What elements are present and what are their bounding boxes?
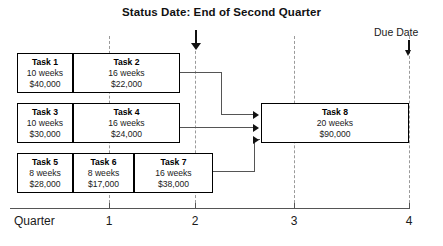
connector-task2-segment-v	[221, 72, 222, 115]
gridline-quarter-4	[409, 36, 410, 208]
task-cost: $90,000	[262, 129, 408, 140]
connector-arrow-into-task8-bottom	[253, 136, 259, 144]
due-date-arrow-icon	[405, 50, 411, 56]
connector-task2-segment-h1	[180, 72, 222, 73]
connector-arrow-into-task8-top	[253, 111, 259, 119]
axis-label-1: 1	[94, 214, 124, 228]
task-cost: $24,000	[74, 129, 179, 140]
task-duration: 20 weeks	[262, 118, 408, 129]
task-box-task-4[interactable]: Task 4 16 weeks $24,000	[73, 103, 180, 143]
gantt-chart-diagram: Status Date: End of Second Quarter Due D…	[0, 0, 443, 246]
task-box-task-5[interactable]: Task 5 8 weeks $28,000	[17, 153, 73, 193]
task-cost: $17,000	[74, 179, 133, 190]
task-duration: 10 weeks	[18, 68, 72, 79]
task-cost: $30,000	[18, 129, 72, 140]
axis-tick-3	[294, 203, 295, 209]
task-cost: $40,000	[18, 79, 72, 90]
task-box-task-8[interactable]: Task 8 20 weeks $90,000	[261, 103, 409, 143]
task-title: Task 7	[135, 157, 212, 168]
task-duration: 16 weeks	[74, 118, 179, 129]
task-duration: 8 weeks	[18, 168, 72, 179]
task-box-task-7[interactable]: Task 7 16 weeks $38,000	[134, 153, 213, 193]
task-box-task-3[interactable]: Task 3 10 weeks $30,000	[17, 103, 73, 143]
task-title: Task 4	[74, 107, 179, 118]
task-duration: 8 weeks	[74, 168, 133, 179]
status-date-title: Status Date: End of Second Quarter	[0, 6, 443, 18]
axis-label-2: 2	[180, 214, 210, 228]
task-duration: 16 weeks	[135, 168, 212, 179]
task-box-task-6[interactable]: Task 6 8 weeks $17,000	[73, 153, 134, 193]
task-title: Task 3	[18, 107, 72, 118]
task-box-task-1[interactable]: Task 1 10 weeks $40,000	[17, 53, 73, 93]
task-title: Task 5	[18, 157, 72, 168]
connector-task7-segment-v	[254, 139, 255, 172]
due-date-label: Due Date	[374, 26, 418, 38]
task-duration: 16 weeks	[74, 68, 179, 79]
task-title: Task 8	[262, 107, 408, 118]
axis-tick-1	[109, 203, 110, 209]
task-cost: $28,000	[18, 179, 72, 190]
task-title: Task 6	[74, 157, 133, 168]
axis-label-4: 4	[394, 214, 424, 228]
connector-arrow-into-task8-middle	[253, 124, 259, 132]
task-box-task-2[interactable]: Task 2 16 weeks $22,000	[73, 53, 180, 93]
axis-label-3: 3	[279, 214, 309, 228]
axis-tick-4	[409, 203, 410, 209]
quarter-axis-line	[10, 208, 410, 209]
axis-caption-quarter: Quarter	[14, 214, 55, 228]
connector-task2-segment-h2	[221, 114, 254, 115]
status-date-arrow-icon	[191, 43, 201, 50]
axis-tick-2	[195, 203, 196, 209]
task-cost: $38,000	[135, 179, 212, 190]
task-title: Task 1	[18, 57, 72, 68]
task-duration: 10 weeks	[18, 118, 72, 129]
task-title: Task 2	[74, 57, 179, 68]
connector-task7-segment-h1	[213, 171, 255, 172]
task-cost: $22,000	[74, 79, 179, 90]
connector-task4-segment-h	[180, 127, 253, 128]
